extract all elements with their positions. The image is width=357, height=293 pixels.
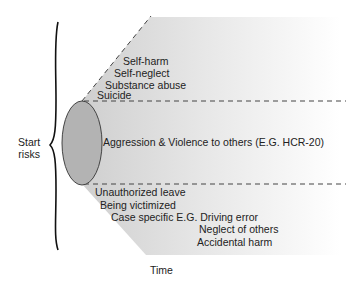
upper-item-self-neglect: Self-neglect [114, 67, 169, 79]
lower-item-unauthorized-leave: Unauthorized leave [95, 186, 185, 198]
upper-item-suicide: Suicide [97, 89, 131, 101]
upper-item-self-harm: Self-harm [123, 55, 169, 67]
curly-brace [50, 22, 58, 250]
lower-item-case-specific: Case specific E.G. Driving error [111, 211, 258, 223]
start-label-line-2: risks [18, 148, 40, 160]
lower-item-accidental-harm: Accidental harm [197, 236, 272, 248]
start-ellipse [62, 101, 102, 185]
start-risks-label: Start risks [18, 136, 40, 160]
time-axis-label: Time [150, 264, 173, 276]
middle-item-aggression: Aggression & Violence to others (E.G. HC… [103, 136, 324, 148]
lower-item-neglect-of-others: Neglect of others [199, 223, 278, 235]
lower-item-being-victimized: Being victimized [100, 199, 176, 211]
start-label-line-1: Start [18, 136, 40, 148]
